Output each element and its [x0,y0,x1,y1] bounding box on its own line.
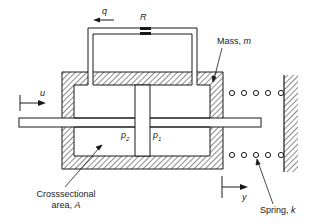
area-symbol: A [75,200,81,210]
flow-label-q: q [102,7,107,16]
input-displacement-u: u [40,89,45,98]
fixed-wall [284,75,298,172]
pressure-p1-subscript: 1 [158,136,161,142]
flow-arrow-q [93,18,114,23]
mass-symbol: m [244,36,252,46]
spring-label-text: Spring, [260,205,291,215]
pressure-p2-label: p2 [121,131,129,142]
mass-label: Mass, m [217,37,251,46]
mass-label-text: Mass, [217,36,244,46]
restriction-R [140,27,151,35]
output-displacement-y: y [242,193,247,202]
spring-label: Spring, k [260,206,296,215]
pressure-p1-label: p1 [153,131,161,142]
area-label-line2: area, A [36,201,96,210]
pressure-p2-subscript: 2 [126,136,129,142]
restriction-label-R: R [140,13,147,22]
spring-symbol: k [291,205,296,215]
area-label-line1: Crosssectional [36,190,96,199]
area-label: Crosssectional area, A [36,190,96,210]
area-label-text: area, [51,200,74,210]
